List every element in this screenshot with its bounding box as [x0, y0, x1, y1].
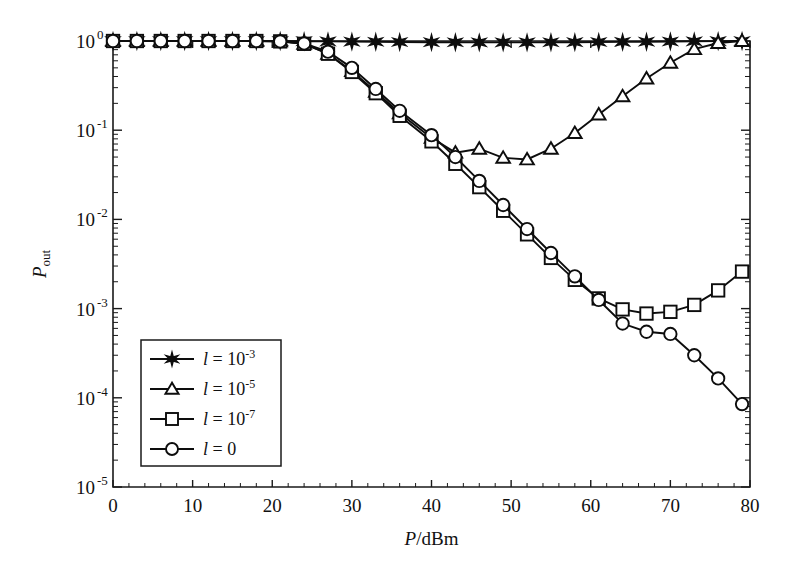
- marker-circle: [274, 35, 286, 47]
- y-tick-label-base: 10: [76, 209, 95, 230]
- marker-circle: [393, 105, 405, 117]
- x-axis-title: P/dBm: [404, 528, 459, 549]
- y-tick-label-base: 10: [76, 31, 95, 52]
- marker-circle: [131, 35, 143, 47]
- x-tick-label: 10: [183, 495, 202, 516]
- marker-triangle: [472, 142, 486, 153]
- marker-circle: [178, 35, 190, 47]
- marker-circle: [712, 372, 724, 384]
- y-tick-label-base: 10: [76, 477, 95, 498]
- marker-circle: [473, 175, 485, 187]
- marker-circle: [593, 294, 605, 306]
- legend-label-exponent: -7: [245, 407, 255, 421]
- marker-circle: [250, 35, 262, 47]
- marker-triangle: [664, 56, 678, 67]
- y-tick-label-base: 10: [76, 388, 95, 409]
- marker-circle: [688, 349, 700, 361]
- y-tick-label: 10-5: [76, 473, 108, 498]
- y-tick-label-exponent: -4: [97, 384, 108, 399]
- x-axis-title-unit: /dBm: [416, 528, 458, 549]
- marker-circle: [664, 328, 676, 340]
- x-tick-label: 0: [108, 495, 118, 516]
- marker-circle: [425, 129, 437, 141]
- marker-circle: [346, 62, 358, 74]
- y-tick-label: 10-2: [76, 205, 108, 230]
- marker-triangle: [640, 72, 654, 83]
- x-tick-label: 70: [661, 495, 680, 516]
- legend-label-value: = 0: [208, 439, 236, 459]
- marker-circle: [298, 37, 310, 49]
- marker-square: [712, 284, 724, 296]
- series-3: [107, 35, 748, 320]
- y-tick-label-exponent: -1: [97, 116, 108, 131]
- y-axis-title-var: P: [29, 266, 50, 279]
- marker-circle: [166, 443, 178, 455]
- marker-square: [616, 303, 628, 315]
- marker-circle: [521, 223, 533, 235]
- y-tick-label-exponent: -3: [97, 295, 108, 310]
- legend-group[interactable]: l = 10-3l = 10-5l = 10-7l = 0: [141, 340, 281, 466]
- marker-circle: [449, 151, 461, 163]
- legend-label-exponent: -3: [245, 347, 255, 361]
- x-tick-label: 60: [581, 495, 600, 516]
- marker-circle: [497, 199, 509, 211]
- marker-square: [166, 413, 178, 425]
- marker-circle: [155, 35, 167, 47]
- x-tick-label: 20: [263, 495, 282, 516]
- y-tick-label-exponent: 0: [97, 27, 104, 42]
- y-tick-label: 10-4: [76, 384, 108, 409]
- marker-triangle: [616, 90, 630, 101]
- figure-container: l = 10-3l = 10-5l = 10-7l = 0 0102030405…: [0, 0, 800, 572]
- y-axis-title: Pout: [29, 250, 53, 280]
- marker-circle: [202, 35, 214, 47]
- marker-circle: [736, 398, 748, 410]
- marker-circle: [616, 317, 628, 329]
- marker-triangle: [496, 151, 510, 162]
- marker-circle: [370, 83, 382, 95]
- x-tick-label: 30: [342, 495, 361, 516]
- x-tick-label: 80: [741, 495, 760, 516]
- legend-label-value: = 10: [208, 349, 245, 369]
- marker-square: [640, 307, 652, 319]
- marker-circle: [322, 45, 334, 57]
- y-tick-label-base: 10: [76, 299, 95, 320]
- legend-label-value: = 10: [208, 409, 245, 429]
- marker-circle: [545, 247, 557, 259]
- marker-square: [688, 299, 700, 311]
- marker-square: [664, 306, 676, 318]
- y-tick-label-base: 10: [76, 120, 95, 141]
- y-tick-label-exponent: -2: [97, 205, 108, 220]
- y-tick-label: 10-3: [76, 295, 108, 320]
- x-tick-label: 40: [422, 495, 441, 516]
- legend-label: l = 0: [203, 439, 236, 459]
- marker-triangle: [544, 142, 558, 153]
- marker-circle: [107, 35, 119, 47]
- y-tick-label-exponent: -5: [97, 473, 108, 488]
- marker-circle: [226, 35, 238, 47]
- marker-circle: [569, 270, 581, 282]
- legend-label-value: = 10: [208, 379, 245, 399]
- x-tick-label: 50: [502, 495, 521, 516]
- marker-circle: [640, 326, 652, 338]
- x-axis-title-var: P: [404, 528, 417, 549]
- log-line-chart: l = 10-3l = 10-5l = 10-7l = 0 0102030405…: [0, 0, 800, 572]
- legend-label-exponent: -5: [245, 377, 255, 391]
- marker-square: [736, 265, 748, 277]
- y-tick-label: 100: [76, 27, 104, 52]
- y-axis-title-subscript: out: [38, 250, 53, 267]
- y-tick-label: 10-1: [76, 116, 108, 141]
